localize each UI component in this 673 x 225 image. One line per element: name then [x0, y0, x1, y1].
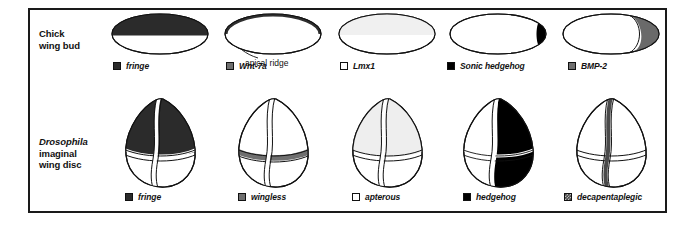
legend-label-lmx1: Lmx1 — [353, 61, 375, 71]
legend-swatch-icon-dpp — [564, 193, 572, 201]
row-label-drosophila-line-3: wing disc — [39, 159, 88, 171]
column-fringe: apical ridge fringe — [105, 0, 215, 225]
legend-swatch-icon-apterous — [352, 193, 360, 201]
legend-swatch-icon-fringe-chick — [113, 62, 121, 70]
row-label-chick-line-2: wing bud — [39, 40, 80, 52]
legend-chick-bmp2: BMP-2 — [568, 61, 607, 71]
legend-chick-lmx1: Lmx1 — [340, 61, 375, 71]
legend-fly-dpp: decapentaplegic — [564, 192, 642, 202]
legend-fly-wingless: wingless — [238, 192, 286, 202]
hedgehog-posterior-compartment — [494, 91, 547, 195]
wing-disc-fringe — [123, 97, 199, 189]
legend-label-hedgehog: hedgehog — [476, 192, 516, 202]
legend-fly-apterous: apterous — [352, 192, 400, 202]
chick-wing-bud-lmx1 — [337, 12, 437, 56]
fringe-expression-domain — [110, 12, 210, 36]
row-label-drosophila: Drosophila imaginal wing disc — [39, 136, 88, 171]
wing-disc-decapentaplegic — [574, 97, 650, 189]
chick-wing-bud-fringe — [110, 12, 210, 56]
frame-left-rule — [28, 8, 30, 213]
column-wnt7a-wingless: Wnt-7a — [218, 0, 328, 225]
row-label-drosophila-line-1: Drosophila — [39, 136, 88, 148]
legend-chick-shh: Sonic hedgehog — [447, 61, 525, 71]
legend-swatch-icon-hedgehog — [463, 193, 471, 201]
wing-disc-wingless — [236, 97, 312, 189]
column-bmp2-dpp: BMP-2 — [556, 0, 666, 225]
legend-label-fringe-fly: fringe — [138, 192, 161, 202]
chick-wing-bud-bmp2 — [561, 12, 661, 56]
column-lmx1-apterous: Lmx1 — [332, 0, 442, 225]
lmx1-dorsal-domain — [337, 12, 437, 35]
legend-fly-fringe: fringe — [125, 192, 161, 202]
legend-swatch-icon-lmx1 — [340, 62, 348, 70]
legend-swatch-icon-bmp2 — [568, 62, 576, 70]
row-label-chick-line-1: Chick — [39, 28, 80, 40]
column-hedgehog: Sonic hedgehog — [443, 0, 553, 225]
legend-label-shh: Sonic hedgehog — [460, 61, 525, 71]
chick-wing-bud-wnt7a — [223, 12, 323, 56]
legend-swatch-icon-shh — [447, 62, 455, 70]
legend-swatch-icon-wingless — [238, 193, 246, 201]
legend-label-fringe-chick: fringe — [126, 61, 149, 71]
figure-root: Chick wing bud Drosophila imaginal wing … — [0, 0, 673, 225]
legend-label-wingless: wingless — [251, 192, 286, 202]
legend-label-wnt7a: Wnt-7a — [239, 61, 267, 71]
legend-swatch-icon-wnt7a — [226, 62, 234, 70]
legend-label-apterous: apterous — [365, 192, 400, 202]
wing-disc-hedgehog — [461, 97, 537, 189]
legend-chick-fringe: fringe — [113, 61, 149, 71]
legend-label-bmp2: BMP-2 — [581, 61, 607, 71]
legend-fly-hedgehog: hedgehog — [463, 192, 516, 202]
row-label-drosophila-line-2: imaginal — [39, 148, 88, 160]
legend-swatch-icon-fringe-fly — [125, 193, 133, 201]
legend-chick-wnt7a: Wnt-7a — [226, 61, 267, 71]
row-label-chick: Chick wing bud — [39, 28, 80, 51]
legend-label-dpp: decapentaplegic — [577, 192, 642, 202]
chick-wing-bud-shh — [448, 12, 548, 56]
wing-disc-apterous — [350, 97, 426, 189]
